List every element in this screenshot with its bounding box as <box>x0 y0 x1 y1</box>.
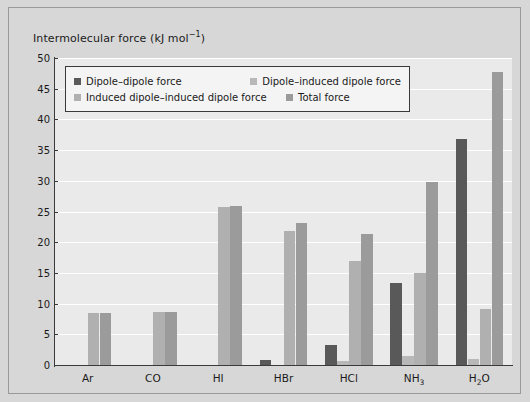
x-tick-label-hcl: HCl <box>340 372 358 384</box>
y-tick-label: 15 <box>20 267 50 278</box>
legend-item-dipole-induced-dipole: Dipole–induced dipole force <box>250 76 401 87</box>
bar <box>218 207 230 365</box>
legend-label-dipole-dipole: Dipole–dipole force <box>86 76 182 87</box>
y-axis-title-text: Intermolecular force (kJ mol <box>33 32 189 45</box>
bar <box>325 345 337 365</box>
y-tick-mark <box>54 242 58 243</box>
legend-item-induced-induced: Induced dipole–induced dipole force <box>74 92 286 103</box>
bar <box>100 313 112 365</box>
legend-row-2: Induced dipole–induced dipole force Tota… <box>74 89 401 105</box>
y-tick-mark <box>54 89 58 90</box>
y-tick-label: 40 <box>20 114 50 125</box>
y-tick-mark <box>54 119 58 120</box>
legend-swatch-induced-induced <box>74 94 81 101</box>
bar <box>165 312 177 365</box>
chart-figure: Intermolecular force (kJ mol−1) 05101520… <box>0 0 530 402</box>
y-tick-mark <box>54 334 58 335</box>
y-tick-mark <box>54 365 58 366</box>
bar <box>456 139 468 365</box>
chart-legend: Dipole–dipole force Dipole–induced dipol… <box>65 66 410 112</box>
bar <box>349 261 361 365</box>
legend-row-1: Dipole–dipole force Dipole–induced dipol… <box>74 73 401 89</box>
bar <box>284 231 296 365</box>
bar <box>390 283 402 365</box>
legend-swatch-dipole-induced-dipole <box>250 78 257 85</box>
bar <box>296 223 308 365</box>
y-tick-mark <box>54 212 58 213</box>
y-tick-mark <box>54 273 58 274</box>
bar <box>426 182 438 365</box>
y-axis-title: Intermolecular force (kJ mol−1) <box>33 32 205 45</box>
y-tick-mark <box>54 304 58 305</box>
bar <box>414 273 426 365</box>
x-tick-label-nh3: NH3 <box>404 372 425 384</box>
y-tick-label: 10 <box>20 298 50 309</box>
x-tick-label-ar: Ar <box>82 372 94 384</box>
y-tick-label: 35 <box>20 145 50 156</box>
x-tick-label-hi: HI <box>213 372 224 384</box>
legend-item-total-force: Total force <box>286 92 350 103</box>
y-axis-ticks: 05101520253035404550 <box>17 58 50 365</box>
x-tick-label-hbr: HBr <box>274 372 293 384</box>
y-tick-label: 45 <box>20 83 50 94</box>
bar <box>480 309 492 365</box>
y-tick-label: 50 <box>20 53 50 64</box>
legend-label-total-force: Total force <box>298 92 350 103</box>
bar <box>361 234 373 365</box>
x-tick-label-co: CO <box>145 372 161 384</box>
y-tick-label: 30 <box>20 175 50 186</box>
legend-swatch-total-force <box>286 94 293 101</box>
y-tick-label: 0 <box>20 360 50 371</box>
y-tick-label: 25 <box>20 206 50 217</box>
legend-swatch-dipole-dipole <box>74 78 81 85</box>
bar <box>492 72 504 365</box>
legend-label-induced-induced: Induced dipole–induced dipole force <box>86 92 267 103</box>
y-axis-title-close: ) <box>201 32 205 45</box>
legend-label-dipole-induced-dipole: Dipole–induced dipole force <box>262 76 401 87</box>
bar <box>230 206 242 365</box>
figure-frame: Intermolecular force (kJ mol−1) 05101520… <box>8 7 521 394</box>
y-tick-label: 20 <box>20 237 50 248</box>
y-tick-label: 5 <box>20 329 50 340</box>
legend-item-dipole-dipole: Dipole–dipole force <box>74 76 250 87</box>
bar <box>153 312 165 365</box>
x-tick-label-h2o: H2O <box>469 372 490 384</box>
bar-group-h2o <box>447 58 512 365</box>
x-axis-line <box>54 365 513 366</box>
y-axis-title-exponent: −1 <box>189 30 201 39</box>
bar <box>402 356 414 365</box>
y-tick-mark <box>54 150 58 151</box>
y-tick-mark <box>54 181 58 182</box>
y-tick-mark <box>54 58 58 59</box>
bar <box>88 313 100 365</box>
